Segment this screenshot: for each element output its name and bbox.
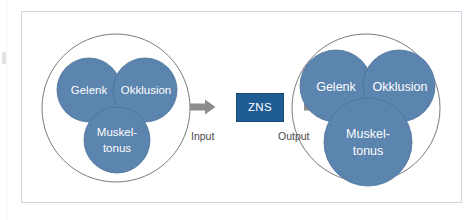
- output-bubble-muskeltonus-label-line2: tonus: [353, 144, 384, 158]
- input-right-arrow-icon: [190, 99, 216, 115]
- zns-processor-label: ZNS: [248, 101, 272, 113]
- input-caption: Input: [191, 130, 214, 142]
- input-bubble-muskeltonus-label-line1: Muskel-: [97, 126, 137, 138]
- input-state-diagram: Gelenk Okklusion Muskel- tonus: [28, 20, 204, 196]
- figure-frame: Gelenk Okklusion Muskel- tonus ZNS Input…: [21, 11, 462, 203]
- output-state-diagram: Gelenk Okklusion Muskel- tonus: [278, 20, 454, 196]
- output-bubble-muskeltonus[interactable]: [324, 98, 412, 186]
- input-bubble-muskeltonus[interactable]: [84, 107, 150, 173]
- output-bubble-gelenk-label: Gelenk: [316, 80, 356, 94]
- input-bubble-muskeltonus-label-line2: tonus: [103, 142, 131, 154]
- scan-edge-line: [6, 0, 7, 220]
- scan-margin-mark: [2, 52, 6, 64]
- input-bubble-okklusion-label: Okklusion: [121, 84, 172, 96]
- output-bubble-okklusion-label: Okklusion: [373, 80, 428, 94]
- input-bubble-gelenk-label: Gelenk: [71, 84, 108, 96]
- zns-processor-box[interactable]: ZNS: [236, 93, 284, 122]
- output-bubble-muskeltonus-label-line1: Muskel-: [346, 127, 390, 141]
